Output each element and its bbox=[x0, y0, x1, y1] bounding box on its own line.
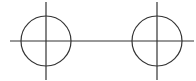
diagram-canvas bbox=[0, 0, 196, 81]
